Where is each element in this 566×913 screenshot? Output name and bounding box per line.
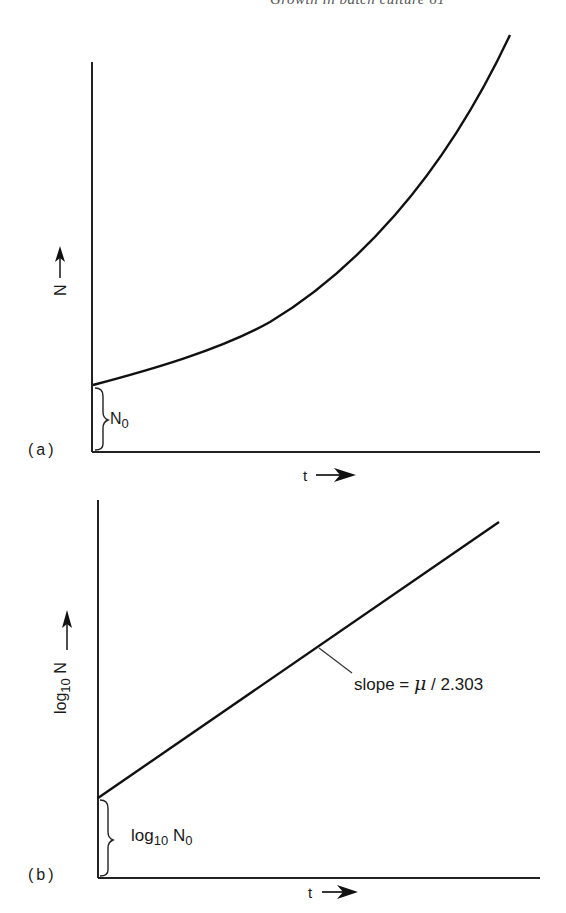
panel-b-tag: (b) <box>28 866 57 884</box>
panel-b-brace-icon <box>100 800 113 876</box>
panel-a-brace-icon <box>95 388 108 450</box>
panel-b-x-label: t <box>308 884 312 901</box>
panel-a-y-label: N <box>52 284 70 296</box>
figure-canvas <box>0 0 566 913</box>
intercept-sub: 0 <box>122 416 129 431</box>
panel-b-log-line <box>98 522 499 798</box>
panel-b-intercept-label: log10 N0 <box>131 826 192 846</box>
intercept-n: N <box>168 826 185 845</box>
mu-symbol: μ <box>414 672 426 694</box>
intercept-log: log <box>131 826 154 845</box>
panel-a-intercept-label: N0 <box>110 410 129 428</box>
intercept-main: N <box>110 410 122 427</box>
intercept-n-sub: 0 <box>185 833 192 848</box>
panel-a-y-label-text: N <box>52 284 69 296</box>
slope-text: slope = <box>354 675 414 694</box>
slope-annotation: slope = μ / 2.303 <box>354 672 483 695</box>
panel-a-axes <box>92 62 540 452</box>
panel-a-tag: (a) <box>28 441 57 459</box>
intercept-log-sub: 10 <box>154 833 168 848</box>
slope-leader-line <box>319 648 352 673</box>
panel-a-y-arrow-icon <box>55 246 65 278</box>
y-label-sub: 10 <box>58 678 73 692</box>
panel-a-growth-curve <box>93 35 510 385</box>
y-label-n: N <box>52 662 69 678</box>
panel-b-y-arrow-icon <box>62 610 72 650</box>
slope-divisor: / 2.303 <box>426 675 483 694</box>
y-label-log: log <box>52 693 69 714</box>
panel-b-x-arrow-icon <box>322 885 358 899</box>
panel-a-x-label: t <box>303 467 307 484</box>
panel-b-y-label: log10 N <box>52 662 70 714</box>
panel-a-x-arrow-icon <box>316 468 356 482</box>
